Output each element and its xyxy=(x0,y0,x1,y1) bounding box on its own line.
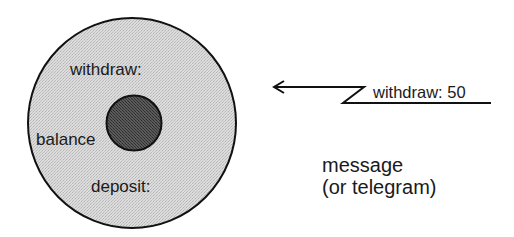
caption-line-1: message xyxy=(322,154,403,176)
diagram-canvas: withdraw: balance deposit: withdraw: 50 … xyxy=(0,0,514,237)
withdraw-method-label: withdraw: xyxy=(69,60,142,79)
deposit-method-label: deposit: xyxy=(91,177,151,196)
caption-line-2: (or telegram) xyxy=(322,176,436,198)
balance-state-circle xyxy=(107,96,162,151)
message-text: withdraw: 50 xyxy=(372,83,466,101)
balance-label: balance xyxy=(36,130,96,149)
